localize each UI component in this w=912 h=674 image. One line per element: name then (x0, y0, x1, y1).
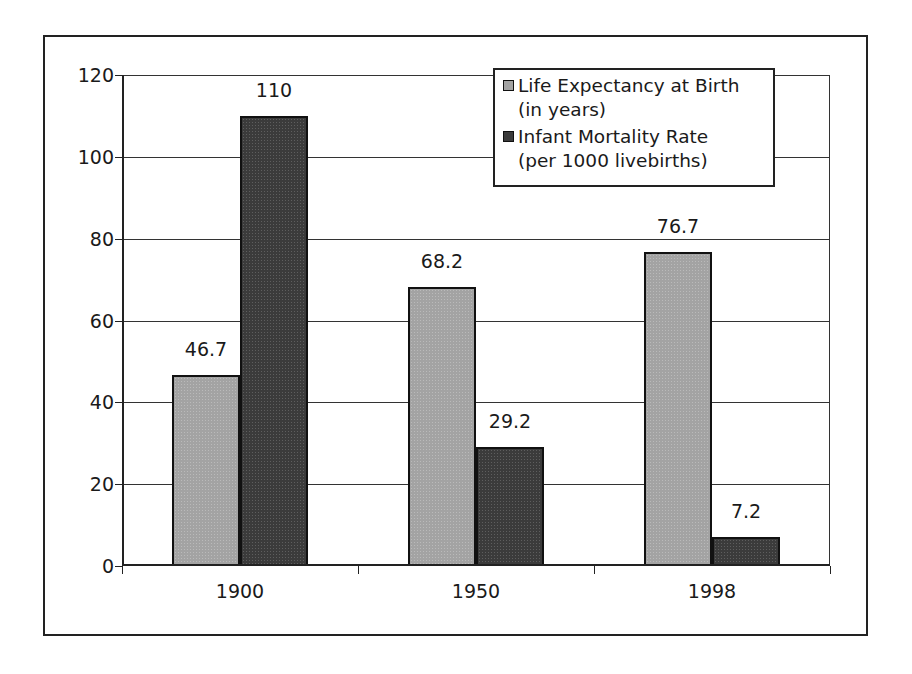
y-tick-label: 60 (54, 310, 114, 332)
legend-sublabel: (in years) (518, 98, 739, 122)
y-tick-label: 0 (54, 555, 114, 577)
gridline (122, 239, 830, 240)
legend: Life Expectancy at Birth (in years) Infa… (493, 68, 775, 187)
y-tick-label: 100 (54, 146, 114, 168)
data-label: 76.7 (638, 215, 718, 237)
legend-sublabel: (per 1000 livebirths) (518, 149, 708, 173)
data-label: 7.2 (706, 500, 786, 522)
legend-entry-infant-mortality: Infant Mortality Rate (per 1000 livebirt… (503, 125, 773, 173)
y-tick-label: 80 (54, 228, 114, 250)
legend-label: Infant Mortality Rate (518, 125, 708, 149)
x-axis (122, 564, 830, 566)
x-tick-label: 1900 (180, 580, 300, 602)
data-label: 46.7 (166, 338, 246, 360)
y-tick-label: 40 (54, 391, 114, 413)
y-tick (115, 402, 122, 403)
y-tick (115, 484, 122, 485)
bar-life-1900 (172, 375, 240, 566)
data-label: 68.2 (402, 250, 482, 272)
data-label: 110 (234, 79, 314, 101)
y-axis (122, 75, 124, 566)
y-tick (115, 75, 122, 76)
legend-swatch-life-icon (503, 80, 514, 91)
x-tick (830, 566, 831, 574)
x-tick-label: 1998 (652, 580, 772, 602)
legend-label: Life Expectancy at Birth (518, 74, 739, 98)
x-tick (122, 566, 123, 574)
y-tick-label: 20 (54, 473, 114, 495)
x-tick-label: 1950 (416, 580, 536, 602)
plot-right-border (829, 75, 830, 566)
gridline (122, 321, 830, 322)
y-tick (115, 321, 122, 322)
y-tick (115, 566, 122, 567)
legend-swatch-infant-icon (503, 131, 514, 142)
bar-infant-1998 (712, 537, 780, 566)
bar-life-1950 (408, 287, 476, 566)
y-tick (115, 239, 122, 240)
y-tick (115, 157, 122, 158)
bar-infant-1950 (476, 447, 544, 566)
legend-entry-life-expectancy: Life Expectancy at Birth (in years) (503, 74, 773, 122)
x-tick (358, 566, 359, 574)
y-tick-label: 120 (54, 64, 114, 86)
bar-life-1998 (644, 252, 712, 566)
data-label: 29.2 (470, 410, 550, 432)
x-tick (594, 566, 595, 574)
bar-infant-1900 (240, 116, 308, 566)
